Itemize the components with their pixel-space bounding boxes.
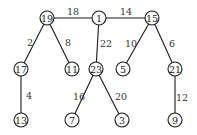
edge-1-23 xyxy=(96,18,99,69)
node-label: 21 xyxy=(169,64,181,75)
edge-weight-label: 16 xyxy=(73,91,85,102)
node-label: 9 xyxy=(172,115,178,126)
node-label: 15 xyxy=(146,13,158,24)
node-label: 11 xyxy=(66,64,78,75)
edge-weight-label: 4 xyxy=(26,90,32,101)
node-13: 13 xyxy=(14,113,28,127)
node-15: 15 xyxy=(145,11,159,25)
edge-weight-label: 10 xyxy=(125,38,137,49)
node-9: 9 xyxy=(168,113,182,127)
edge-weight-label: 12 xyxy=(176,92,188,103)
node-label: 17 xyxy=(15,64,27,75)
node-label: 3 xyxy=(119,115,125,126)
node-7: 7 xyxy=(65,113,79,127)
node-label: 19 xyxy=(41,13,53,24)
node-label: 7 xyxy=(69,115,75,126)
edge-weight-label: 14 xyxy=(120,6,132,17)
node-3: 3 xyxy=(115,113,129,127)
edge-19-17 xyxy=(21,18,47,69)
node-17: 17 xyxy=(14,62,28,76)
node-19: 19 xyxy=(40,11,54,25)
edge-weight-label: 20 xyxy=(115,91,127,102)
edge-weight-label: 22 xyxy=(100,38,112,49)
node-21: 21 xyxy=(168,62,182,76)
edge-weight-label: 6 xyxy=(169,38,175,49)
node-label: 5 xyxy=(120,64,126,75)
node-label: 23 xyxy=(90,64,102,75)
node-label: 1 xyxy=(96,13,102,24)
edge-weight-label: 18 xyxy=(67,6,79,17)
edge-weight-label: 8 xyxy=(65,37,71,48)
node-23: 23 xyxy=(89,62,103,76)
edge-weight-label: 2 xyxy=(27,37,33,48)
weighted-tree-diagram: 181428221064162012 1911517112352113739 xyxy=(0,0,197,135)
node-5: 5 xyxy=(116,62,130,76)
node-label: 13 xyxy=(15,115,27,126)
node-11: 11 xyxy=(65,62,79,76)
node-1: 1 xyxy=(92,11,106,25)
